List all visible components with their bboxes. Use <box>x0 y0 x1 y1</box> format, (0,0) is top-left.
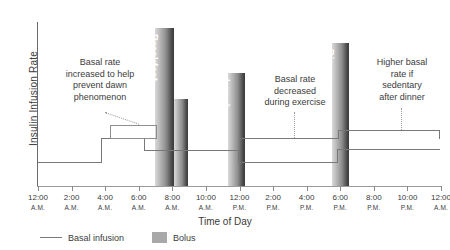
x-axis-tick <box>441 186 442 191</box>
dawn-callout-box <box>110 125 157 139</box>
tick-label-time: 12:00 <box>28 193 48 202</box>
basal-upper-end-cap <box>439 130 440 139</box>
bolus-label-breakfast: Breakfast <box>148 34 159 81</box>
bolus-bar-lunch: Lunch <box>228 73 245 186</box>
x-axis-tick <box>172 186 173 191</box>
legend-item-bolus: Bolus <box>152 232 196 243</box>
annotation-exercise-line3: during exercise <box>255 97 335 109</box>
annotation-sedentary-line4: after dinner <box>364 92 440 104</box>
x-axis-tick <box>340 186 341 191</box>
annotation-sedentary: Higher basal rate if sedentary after din… <box>364 57 440 103</box>
x-axis-tick <box>105 186 106 191</box>
x-axis-tick <box>206 186 207 191</box>
x-axis-tick <box>38 186 39 191</box>
basal-segment-overnight <box>38 162 102 163</box>
exercise-leader-line <box>294 112 295 138</box>
tick-label-time: 8:00 <box>366 193 382 202</box>
basal-segment-morning <box>144 150 239 151</box>
annotation-exercise-line2: decreased <box>255 86 335 98</box>
y-axis-title: Insulin Infusion Rate <box>28 19 39 179</box>
x-axis-tick <box>307 186 308 191</box>
x-axis-tick <box>407 186 408 191</box>
legend-line-icon <box>40 237 62 239</box>
legend: Basal infusion Bolus <box>40 232 196 243</box>
annotation-dawn-line4: phenomenon <box>52 92 148 104</box>
legend-label-basal: Basal infusion <box>68 233 124 243</box>
bolus-bar-dinner: Dinner <box>332 43 349 186</box>
x-axis-tick-label: 12:00A.M. <box>419 193 450 212</box>
tick-label-time: 10:00 <box>196 193 216 202</box>
annotation-exercise: Basal rate decreased during exercise <box>255 74 335 109</box>
annotation-sedentary-line2: rate if <box>364 69 440 81</box>
annotation-dawn-line3: prevent dawn <box>52 80 148 92</box>
tick-label-time: 10:00 <box>397 193 417 202</box>
annotation-sedentary-line3: sedentary <box>364 80 440 92</box>
annotation-dawn-line2: increased to help <box>52 69 148 81</box>
tick-label-time: 4:00 <box>299 193 315 202</box>
legend-swatch-icon <box>152 232 167 243</box>
basal-rise-dinner <box>337 149 338 163</box>
legend-label-bolus: Bolus <box>173 233 196 243</box>
tick-label-time: 6:00 <box>131 193 147 202</box>
annotation-sedentary-line1: Higher basal <box>364 57 440 69</box>
tick-label-time: 2:00 <box>64 193 80 202</box>
tick-label-meridiem: A.M. <box>419 203 450 213</box>
legend-item-basal: Basal infusion <box>40 233 124 243</box>
annotation-dawn-line1: Basal rate <box>52 57 148 69</box>
tick-label-time: 12:00 <box>229 193 249 202</box>
x-axis-tick <box>240 186 241 191</box>
bolus-bar-breakfast: Breakfast <box>155 28 174 186</box>
insulin-pump-chart: Insulin Infusion Rate Breakfast Lunch Di… <box>0 0 450 250</box>
tick-label-time: 8:00 <box>165 193 181 202</box>
basal-segment-post-dinner <box>337 149 440 150</box>
tick-label-time: 2:00 <box>265 193 281 202</box>
basal-upper-segment-afternoon <box>238 138 339 139</box>
tick-label-time: 12:00 <box>431 193 450 202</box>
dawn-leader-line <box>105 112 139 125</box>
tick-label-time: 6:00 <box>332 193 348 202</box>
basal-rise-dawn <box>101 138 102 163</box>
annotation-exercise-line1: Basal rate <box>255 74 335 86</box>
x-axis-tick <box>72 186 73 191</box>
x-axis-title: Time of Day <box>0 216 450 227</box>
x-axis-tick <box>374 186 375 191</box>
tick-label-time: 4:00 <box>97 193 113 202</box>
x-axis-tick <box>273 186 274 191</box>
basal-upper-segment-evening <box>338 130 440 131</box>
annotation-dawn: Basal rate increased to help prevent daw… <box>52 57 148 103</box>
bolus-label-lunch: Lunch <box>220 79 231 110</box>
sedentary-leader-line <box>401 108 402 130</box>
x-axis-tick <box>139 186 140 191</box>
bolus-bar-breakfast-tail <box>174 99 188 186</box>
basal-segment-exercise <box>238 162 338 163</box>
